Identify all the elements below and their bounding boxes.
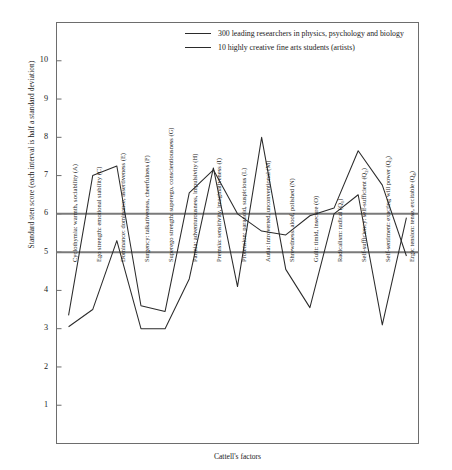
x-label-M: Autia: introverted, unconventional (M) — [265, 77, 272, 262]
legend-label-artists: 10 highly creative fine arts students (a… — [218, 43, 355, 52]
legend-label-researchers: 300 leading researchers in physics, psyc… — [218, 29, 404, 38]
x-label-O: Guilt: timid, insecure (O) — [313, 77, 320, 262]
x-axis-category-labels: Cyclothymia: warmth, sociability (A)Ego … — [0, 0, 452, 470]
x-label-G: Superego strength: superego, conscientio… — [168, 77, 175, 262]
legend-item: 300 leading researchers in physics, psyc… — [185, 26, 404, 40]
chart-legend: 300 leading researchers in physics, psyc… — [185, 26, 404, 54]
x-label-Q4: Ergic tension: tense, excitable (Q4) — [409, 77, 418, 262]
x-label-Q1: Radicalism: radical (Q1) — [337, 77, 346, 262]
cattell-factors-line-chart: Standard sten score (each interval is ha… — [0, 0, 452, 470]
legend-line-swatch-artists — [185, 47, 211, 48]
x-label-Q3: Self-sentiment: exacting will power (Q3) — [385, 77, 394, 262]
legend-line-swatch-researchers — [185, 33, 211, 34]
x-label-H: Parmia: adventurousness, impulsivity (H) — [192, 77, 199, 262]
x-label-C: Ego strength: emotional stability (C) — [96, 77, 103, 262]
x-label-E: Dominance: dominance, assertiveness (E) — [120, 77, 127, 262]
x-label-Q2: Self-sufficiency: self-sufficient (Q2) — [361, 77, 370, 262]
x-axis-title: Cattell's factors — [56, 452, 419, 461]
x-label-I: Premsia: sensitivity, imaginativeness (I… — [216, 77, 223, 262]
legend-item: 10 highly creative fine arts students (a… — [185, 40, 404, 54]
x-label-N: Shrewdness: aloof, polished (N) — [289, 77, 296, 262]
x-label-L: Protension: paranoid, suspicious (L) — [241, 77, 248, 262]
x-label-F: Surgency: talkativeness, cheerfulness (F… — [144, 77, 151, 262]
x-label-A: Cyclothymia: warmth, sociability (A) — [72, 77, 79, 262]
